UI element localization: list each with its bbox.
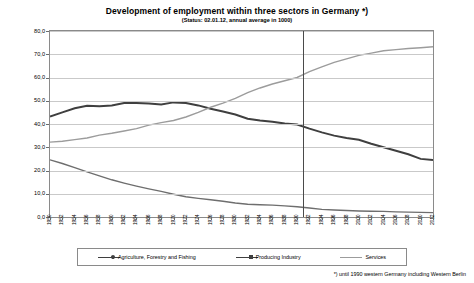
- y-axis-tick: [46, 101, 49, 102]
- x-axis-tick-label: 1970: [170, 215, 176, 225]
- x-axis-tick: [223, 217, 224, 220]
- x-axis-tick: [62, 217, 63, 220]
- y-axis-tick-label: 80,0: [19, 28, 45, 34]
- x-axis-tick: [235, 217, 236, 220]
- x-axis-tick-label: 2000: [355, 215, 361, 225]
- x-axis-tick: [359, 217, 360, 220]
- x-axis-tick: [174, 217, 175, 220]
- gridline: [50, 31, 433, 32]
- x-axis-tick: [112, 217, 113, 220]
- chart-page: Development of employment within three s…: [0, 0, 474, 283]
- chart-subtitle: (Status: 02.01.12, annual average in 100…: [0, 17, 474, 23]
- x-axis-tick-label: 1950: [46, 215, 52, 225]
- y-axis-tick: [46, 147, 49, 148]
- x-axis-tick-label: 2006: [392, 215, 398, 225]
- x-axis-tick: [396, 217, 397, 220]
- x-axis-tick: [248, 217, 249, 220]
- x-axis-tick: [186, 217, 187, 220]
- gridline: [50, 171, 433, 172]
- gridline: [50, 124, 433, 125]
- chart-footnote: *) until 1990 western Germany including …: [334, 271, 466, 277]
- legend-label: Producing Industry: [256, 254, 301, 260]
- x-axis-tick-label: 1954: [71, 215, 77, 225]
- x-axis-tick-label: 1990: [293, 215, 299, 225]
- y-axis-tick: [46, 194, 49, 195]
- legend-line-icon: [98, 257, 120, 258]
- y-axis-tick-label: 40,0: [19, 121, 45, 127]
- x-axis-tick: [75, 217, 76, 220]
- gridline: [50, 101, 433, 102]
- y-axis-tick-label: 70,0: [19, 51, 45, 57]
- reference-line-1991: [303, 31, 304, 217]
- y-axis-tick-label: 30,0: [19, 144, 45, 150]
- x-axis-tick: [408, 217, 409, 220]
- y-axis-tick: [46, 54, 49, 55]
- x-axis-tick-label: 2008: [404, 215, 410, 225]
- x-axis-tick-label: 1982: [244, 215, 250, 225]
- gridline: [50, 194, 433, 195]
- x-axis-tick: [87, 217, 88, 220]
- y-axis-tick-label: 60,0: [19, 74, 45, 80]
- legend-marker-icon: [249, 255, 253, 259]
- x-axis-tick-label: 1962: [120, 215, 126, 225]
- legend-line-icon: [236, 257, 258, 258]
- x-axis-tick-label: 1988: [281, 215, 287, 225]
- x-axis-tick: [161, 217, 162, 220]
- x-axis-tick-label: 1974: [194, 215, 200, 225]
- y-axis-tick: [46, 171, 49, 172]
- y-axis-tick-label: 0,0: [19, 214, 45, 220]
- x-axis-tick-label: 1996: [330, 215, 336, 225]
- plot-area: [49, 30, 434, 218]
- x-axis-tick: [124, 217, 125, 220]
- x-axis-tick-label: 2004: [380, 215, 386, 225]
- x-axis-tick: [384, 217, 385, 220]
- chart-legend: Agriculture, Forestry and FishingProduci…: [77, 248, 407, 266]
- y-axis-tick-label: 50,0: [19, 97, 45, 103]
- x-axis-tick: [347, 217, 348, 220]
- x-axis-tick-label: 1952: [58, 215, 64, 225]
- x-axis-tick-label: 1972: [182, 215, 188, 225]
- x-axis-tick: [297, 217, 298, 220]
- y-axis-tick: [46, 124, 49, 125]
- x-axis-tick-label: 1998: [343, 215, 349, 225]
- x-axis-tick: [50, 217, 51, 220]
- y-axis-tick-label: 10,0: [19, 190, 45, 196]
- x-axis-tick: [198, 217, 199, 220]
- x-axis-tick: [272, 217, 273, 220]
- x-axis-tick: [309, 217, 310, 220]
- y-axis-tick-label: 20,0: [19, 167, 45, 173]
- gridline: [50, 147, 433, 148]
- x-axis-tick-label: 1992: [305, 215, 311, 225]
- x-axis-tick-label: 1980: [231, 215, 237, 225]
- x-axis-tick-label: 1986: [268, 215, 274, 225]
- x-axis-tick-label: 2010: [417, 215, 423, 225]
- x-axis-tick-label: 1968: [157, 215, 163, 225]
- series-line: [50, 160, 433, 213]
- x-axis-tick-label: 1966: [145, 215, 151, 225]
- x-axis-tick-label: 1964: [132, 215, 138, 225]
- legend-label: Agriculture, Forestry and Fishing: [118, 254, 196, 260]
- x-axis-tick-label: 1956: [83, 215, 89, 225]
- x-axis-tick-label: 2012: [429, 215, 435, 225]
- x-axis-tick: [149, 217, 150, 220]
- x-axis-tick: [421, 217, 422, 220]
- x-axis-tick: [433, 217, 434, 220]
- x-axis-tick: [136, 217, 137, 220]
- y-axis-tick: [46, 31, 49, 32]
- chart-title: Development of employment within three s…: [0, 6, 474, 16]
- legend-marker-icon: [110, 254, 116, 260]
- x-axis-tick-label: 1976: [207, 215, 213, 225]
- x-axis-tick-label: 1994: [318, 215, 324, 225]
- x-axis-tick: [260, 217, 261, 220]
- legend-label: Services: [365, 254, 386, 260]
- x-axis-tick: [99, 217, 100, 220]
- gridline: [50, 78, 433, 79]
- legend-item: Agriculture, Forestry and Fishing: [98, 254, 196, 260]
- x-axis-tick: [285, 217, 286, 220]
- series-line: [50, 102, 433, 160]
- legend-item: Producing Industry: [236, 254, 301, 260]
- y-axis-tick: [46, 78, 49, 79]
- x-axis-tick-label: 1960: [108, 215, 114, 225]
- x-axis-tick-label: 1978: [219, 215, 225, 225]
- x-axis-tick: [334, 217, 335, 220]
